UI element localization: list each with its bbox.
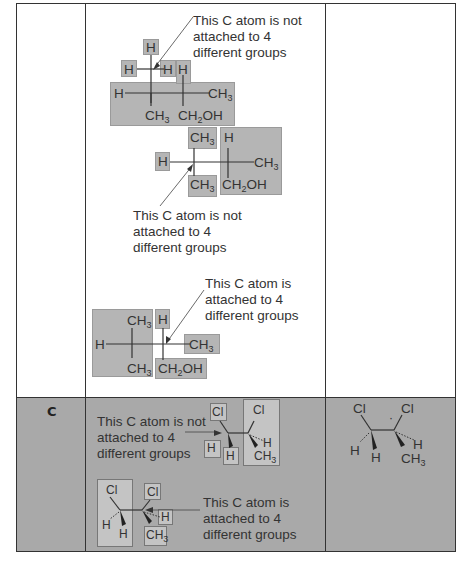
bond-lines <box>0 0 464 573</box>
atom-cl: Cl <box>353 401 366 416</box>
atom-ch3: CH3 <box>401 451 426 471</box>
atom-h: H <box>350 443 360 458</box>
chiral-center-marker: · <box>389 411 393 426</box>
atom-h: H <box>413 437 423 452</box>
atom-cl: Cl <box>401 401 414 416</box>
atom-h: H <box>371 450 381 465</box>
